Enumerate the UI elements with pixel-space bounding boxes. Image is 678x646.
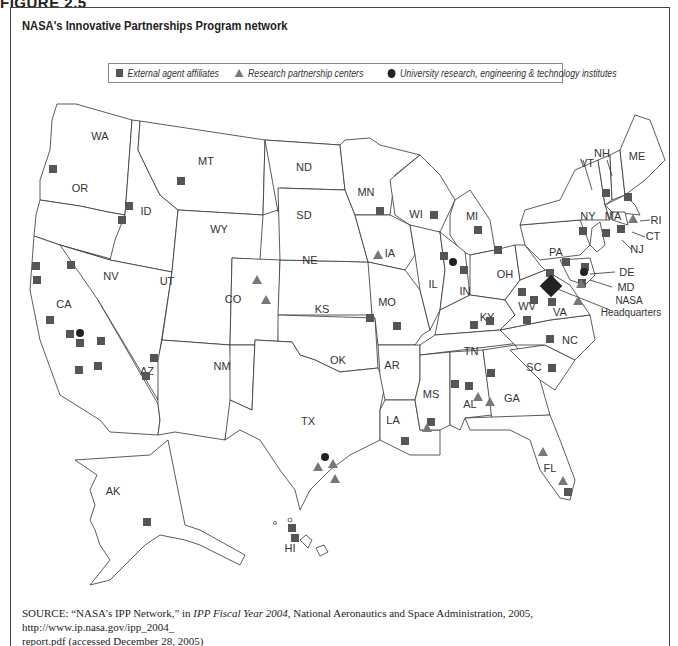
source-publication: IPP Fiscal Year 2004 — [193, 607, 287, 619]
state-label-nm: NM — [213, 360, 230, 372]
state-label-nd: ND — [296, 161, 312, 173]
state-label-ga: GA — [504, 392, 521, 404]
state-label-mn: MN — [357, 186, 374, 198]
state-label-il: IL — [428, 278, 437, 290]
state-label-mt: MT — [198, 155, 214, 167]
state-label-wy: WY — [210, 223, 228, 235]
state-label-nv: NV — [103, 270, 119, 282]
state-label-va: VA — [553, 306, 568, 318]
state-label-nc: NC — [562, 334, 578, 346]
state-label-sd: SD — [296, 209, 311, 221]
state-label-ca: CA — [56, 298, 72, 310]
source-prefix: SOURCE: — [22, 607, 68, 619]
state-label-me: ME — [629, 150, 646, 162]
state-label-la: LA — [386, 414, 400, 426]
state-label-de: DE — [619, 266, 634, 278]
state-label-ia: IA — [385, 247, 396, 259]
source-line2: report.pdf (accessed December 28, 2005) — [22, 635, 203, 646]
state-label-ks: KS — [315, 303, 330, 315]
state-label-nj: NJ — [630, 243, 643, 255]
state-label-co: CO — [225, 293, 242, 305]
hq-label-line2: Headquarters — [601, 307, 662, 318]
state-label-wi: WI — [409, 208, 422, 220]
state-label-hi: HI — [285, 542, 296, 554]
state-label-vt: VT — [580, 157, 594, 169]
state-label-ma: MA — [605, 210, 622, 222]
hq-label-line1: NASA — [615, 295, 643, 306]
state-label-tn: TN — [464, 345, 479, 357]
state-label-ne: NE — [302, 254, 317, 266]
state-label-fl: FL — [544, 462, 557, 474]
state-label-ok: OK — [330, 354, 347, 366]
state-label-wa: WA — [91, 130, 109, 142]
state-label-or: OR — [72, 182, 89, 194]
state-label-mi: MI — [466, 210, 478, 222]
us-map: WA OR CA NV ID MT WY UT CO AZ NM ND SD N… — [0, 0, 678, 646]
state-label-ms: MS — [423, 388, 440, 400]
state-label-ri: RI — [651, 214, 662, 226]
state-label-ny: NY — [580, 210, 596, 222]
state-label-ut: UT — [160, 275, 175, 287]
state-label-pa: PA — [549, 246, 564, 258]
state-label-md: MD — [617, 281, 634, 293]
state-label-oh: OH — [497, 268, 514, 280]
state-label-nh: NH — [594, 147, 610, 159]
state-label-sc: SC — [526, 361, 541, 373]
state-label-ct: CT — [646, 230, 661, 242]
state-label-in: IN — [460, 285, 471, 297]
source-quote: “NASA’s IPP Network,” in — [71, 607, 193, 619]
state-label-id: ID — [141, 205, 152, 217]
source-citation: SOURCE: “NASA’s IPP Network,” in IPP Fis… — [22, 606, 662, 646]
state-label-mo: MO — [378, 296, 396, 308]
state-label-ar: AR — [384, 359, 399, 371]
state-label-tx: TX — [301, 415, 316, 427]
state-label-ak: AK — [106, 485, 121, 497]
